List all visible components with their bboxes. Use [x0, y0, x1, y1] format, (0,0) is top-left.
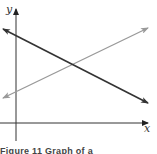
y-axis-label: y — [6, 4, 12, 15]
graph-figure: y x Figure 11 Graph of a — [0, 0, 157, 154]
increasing-line — [3, 28, 148, 98]
figure-caption: Figure 11 Graph of a — [0, 146, 93, 154]
x-axis-label: x — [144, 123, 150, 134]
graph-canvas — [0, 0, 157, 154]
decreasing-line — [3, 29, 148, 103]
